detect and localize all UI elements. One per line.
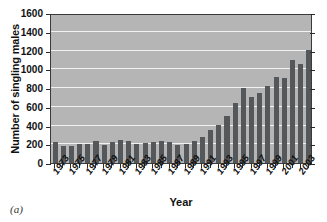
y-axis-tick-mark [46,164,51,165]
right-axis-tick-mark [310,145,315,146]
bar [265,86,270,163]
y-axis-tick-label: 1600 [6,8,43,19]
bar [249,97,254,163]
bar [282,78,287,163]
bar [290,60,295,163]
figure-container: Number of singling males 020040060080010… [0,0,327,222]
y-axis-tick-label: 1000 [6,64,43,75]
y-axis-tick-label: 200 [6,139,43,150]
gridline [51,106,311,107]
y-axis-tick-label: 800 [6,83,43,94]
gridline [51,50,311,51]
gridline [51,87,311,88]
gridline [51,31,311,32]
bar [298,64,303,163]
right-axis-tick-mark [310,108,315,109]
y-axis-tick-label: 1400 [6,27,43,38]
right-axis-tick-mark [310,89,315,90]
right-axis-tick-mark [310,127,315,128]
bar [274,77,279,163]
y-axis-tick-label: 400 [6,121,43,132]
right-axis-tick-mark [310,33,315,34]
y-axis-tick-label: 600 [6,102,43,113]
right-axis-tick-mark [310,70,315,71]
plot-area [50,14,312,164]
right-axis-tick-mark [310,52,315,53]
x-axis-title: Year [50,196,312,208]
figure-caption: (a) [10,203,23,215]
right-axis-tick-mark [310,14,315,15]
gridline [51,125,311,126]
gridline [51,68,311,69]
bar [233,103,238,163]
y-axis-tick-label: 1200 [6,46,43,57]
y-axis-tick-label: 0 [6,158,43,169]
